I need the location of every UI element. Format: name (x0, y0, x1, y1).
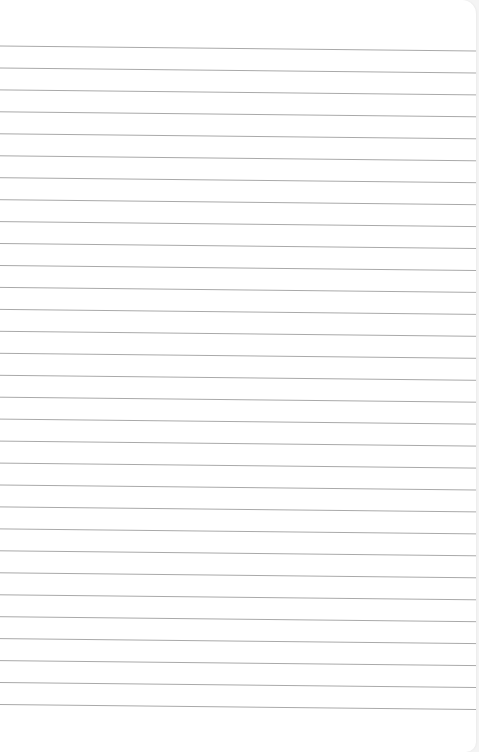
ruled-line (0, 463, 476, 468)
ruled-line (0, 661, 476, 666)
ruled-line (0, 68, 476, 73)
ruled-line (0, 266, 476, 271)
ruled-line (0, 419, 476, 424)
ruled-line (0, 112, 476, 117)
ruled-line (0, 178, 476, 183)
ruled-line (0, 573, 476, 578)
lined-paper-sheet (0, 0, 476, 752)
ruled-line (0, 683, 476, 688)
ruled-line (0, 397, 476, 402)
ruled-line (0, 90, 476, 95)
ruled-line (0, 375, 476, 380)
ruled-line (0, 134, 476, 139)
ruled-line (0, 309, 476, 314)
ruled-line (0, 705, 476, 710)
ruled-line (0, 156, 476, 161)
ruled-line (0, 529, 476, 534)
ruled-line (0, 353, 476, 358)
ruled-line (0, 507, 476, 512)
ruled-line (0, 244, 476, 249)
ruled-line (0, 441, 476, 446)
ruled-line (0, 617, 476, 622)
ruled-line (0, 485, 476, 490)
ruled-line (0, 287, 476, 292)
ruled-line (0, 46, 476, 51)
ruled-line (0, 595, 476, 600)
ruled-line (0, 639, 476, 644)
ruled-line (0, 551, 476, 556)
ruled-line (0, 200, 476, 205)
ruled-line (0, 222, 476, 227)
ruled-line (0, 331, 476, 336)
ruled-lines (0, 0, 476, 752)
